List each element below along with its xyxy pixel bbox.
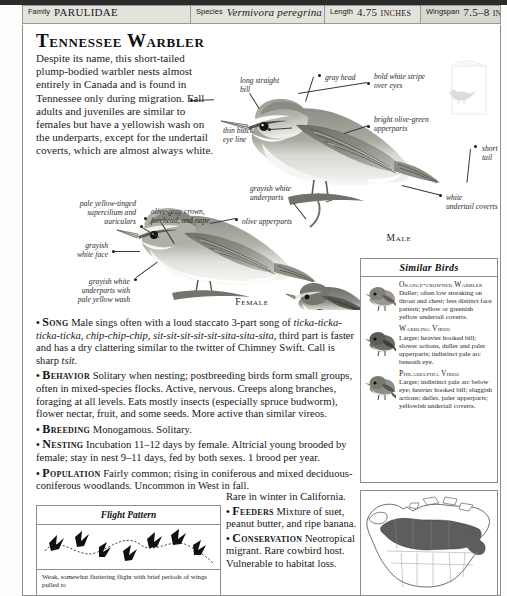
caption-male: Male [374,233,424,243]
similar-bird-name: Philadelphia Vireo [399,370,493,378]
annotation-olive-upperparts: olive upperparts [242,217,292,226]
header-value-species: Vermivora peregrina [227,6,322,18]
population-continuation: Rare in winter in California. [226,491,358,504]
similar-bird-text: Philadelphia Vireo Larger; indistinct pa… [399,370,493,410]
annotation-dot-short-tail [474,145,477,148]
similar-bird-description: Larger; indistinct pale arc below eye; h… [399,378,492,409]
annotation-grayish-white-wash: grayish white underparts with pale yello… [46,277,130,304]
annotation-white-undertail-coverts: white undertail coverts [446,193,501,211]
similar-birds-heading: Similar Birds [361,259,497,277]
annotation-short-tail: short tail [482,144,501,162]
section-song: • Song Male sings often with a loud stac… [36,316,358,367]
header-value-length: 4.75 inches [357,6,411,18]
header-field-length: Length 4.75 inches [325,6,421,23]
caption-female: Female [222,297,282,307]
similar-bird-name: Orange-crowned Warbler [399,281,493,289]
similar-bird-description: Duller; often low streaking on throat an… [399,289,492,320]
section-behavior: • Behavior Solitary when nesting; postbr… [36,369,358,420]
account-body-right-column: Rare in winter in California. • Feeders … [226,491,358,572]
header-field-family: Family PARULIDAE [23,6,191,23]
section-label-conservation: Conservation [232,531,302,545]
header-field-wingspan: Wingspan 7.5–8 inches [421,6,500,23]
header-field-species: Species Vermivora peregrina [191,6,325,23]
section-feeders: • Feeders Mixture of suet, peanut butter… [226,505,358,531]
section-label-song: Song [42,315,68,329]
annotation-dot-crown [144,217,147,220]
similar-birds-panel: Similar Birds Orange-cro [360,258,498,483]
section-population: • Population Fairly common; rising in co… [36,467,358,493]
species-header-bar: Family PARULIDAE Species Vermivora pereg… [22,5,501,24]
annotation-pale-yellow-supercilium: pale yellow-tinged supercilium and auric… [52,199,136,226]
leader-line-face [114,251,140,252]
flight-pattern-panel: Flight Pattern Weak, somewhat fluttering… [36,505,221,596]
header-key-wingspan: Wingspan [426,7,459,16]
caption-fall-plumage: Fall Plumage [300,308,356,310]
header-value-wingspan: 7.5–8 inches [463,6,500,18]
similar-bird-description: Larger; heavier hooked bill; slower acti… [399,334,485,365]
section-label-feeders: Feeders [232,504,273,518]
similar-bird-item[interactable]: Philadelphia Vireo Larger; indistinct pa… [365,370,493,410]
similar-bird-text: Warbling Vireo Larger; heavier hooked bi… [399,325,493,365]
warbling-vireo-thumb-icon [365,325,396,365]
similar-bird-item[interactable]: Warbling Vireo Larger; heavier hooked bi… [365,325,493,365]
section-conservation: • Conservation Neotropical migrant. Rare… [226,532,358,571]
leader-line-bill [192,99,214,101]
annotation-olive-gray-crown: olive-gray crown, forehead, and nape [151,207,231,225]
philadelphia-vireo-thumb-icon [365,370,396,410]
section-label-behavior: Behavior [42,368,90,382]
header-key-family: Family [28,7,50,16]
similar-bird-name: Warbling Vireo [399,325,493,333]
section-text-nesting: Incubation 11–12 days by female. Altrici… [36,439,347,463]
annotation-grayish-white-face: grayish white face [52,241,108,259]
section-nesting: • Nesting Incubation 11–12 days by femal… [36,438,358,464]
similar-birds-list: Orange-crowned Warbler Duller; often low… [361,277,497,410]
section-text-song-1: Male sings often with a loud staccato 3-… [71,317,293,328]
header-value-family: PARULIDAE [54,6,118,18]
annotation-bold-white-stripe: bold white stripe over eyes [374,72,450,90]
annotation-bright-olive-green: bright olive-green upperparts [374,115,450,133]
range-map [360,490,498,596]
flight-pattern-caption: Weak, somewhat fluttering flight with br… [37,570,220,590]
orange-crowned-warbler-thumb-icon [365,281,396,321]
account-body-text: • Song Male sings often with a loud stac… [36,316,358,495]
flight-pattern-heading: Flight Pattern [37,506,220,525]
annotation-long-straight-bill: long straight bill [240,76,302,94]
annotation-grayish-white-underparts: grayish white underparts [250,184,312,202]
similar-bird-text: Orange-crowned Warbler Duller; often low… [399,281,493,321]
similar-bird-item[interactable]: Orange-crowned Warbler Duller; often low… [365,281,493,321]
section-label-nesting: Nesting [42,437,83,451]
section-text-song-4: tsit. [62,355,78,366]
annotation-dot-wash [134,278,137,281]
section-breeding: • Breeding Monogamous. Solitary. [36,423,358,437]
header-key-species: Species [196,7,223,16]
annotation-dot-white-stripe [367,82,370,85]
annotation-gray-head: gray head [325,73,356,82]
header-key-length: Length [330,7,353,16]
section-label-breeding: Breeding [42,422,90,436]
leader-line-short-tail [466,149,471,183]
flight-pattern-diagram [37,525,220,570]
annotation-dot-gray-head [318,74,321,77]
section-label-population: Population [42,466,100,480]
section-text-breeding: Monogamous. Solitary. [90,424,192,435]
field-guide-page: Family PARULIDAE Species Vermivora pereg… [0,0,507,596]
